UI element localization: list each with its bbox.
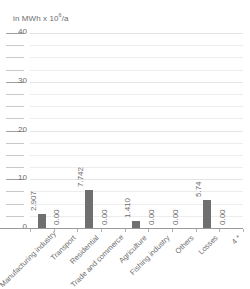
y-tick-mark bbox=[6, 216, 24, 217]
bar-value-label: 1.410 bbox=[124, 198, 132, 218]
bar-slot[interactable]: 5.74 bbox=[196, 33, 220, 228]
y-tick-label: 40 bbox=[5, 28, 27, 36]
y-tick-mark bbox=[6, 45, 24, 46]
y-tick-mark bbox=[6, 204, 24, 205]
y-axis: 010203040 bbox=[0, 33, 27, 228]
bar-slot[interactable]: 7.742 bbox=[77, 33, 101, 228]
unit-caption-suffix: /a bbox=[62, 14, 69, 23]
x-axis-ticks bbox=[30, 229, 243, 233]
bar-value-label: 0.00 bbox=[219, 209, 227, 225]
x-tick-mark bbox=[77, 229, 78, 232]
x-tick-mark bbox=[148, 229, 149, 232]
y-tick-label: 30 bbox=[5, 77, 27, 85]
bar-value-label: 5.74 bbox=[195, 181, 203, 197]
bar-chart: in MWh x 106/a 010203040 2.9070.007.7420… bbox=[0, 0, 250, 289]
y-tick-mark bbox=[6, 94, 24, 95]
y-tick-mark bbox=[6, 57, 24, 58]
y-tick-mark bbox=[6, 106, 24, 107]
bar-value-label: 2.907 bbox=[30, 191, 38, 211]
bar-slot[interactable]: 0.00 bbox=[148, 33, 172, 228]
y-tick-mark bbox=[6, 143, 24, 144]
y-tick-mark bbox=[6, 191, 24, 192]
x-tick-mark bbox=[219, 229, 220, 232]
x-tick-mark bbox=[125, 229, 126, 232]
bar-value-label: 0.00 bbox=[101, 209, 109, 225]
bar-slot[interactable]: 0.00 bbox=[219, 33, 243, 228]
x-tick-mark bbox=[30, 229, 31, 232]
bar-slot[interactable]: 2.907 bbox=[30, 33, 54, 228]
y-tick-mark bbox=[6, 70, 24, 71]
x-tick-mark bbox=[172, 229, 173, 232]
bar-slot[interactable]: 0.00 bbox=[172, 33, 196, 228]
y-tick-mark bbox=[6, 167, 24, 168]
bar[interactable] bbox=[38, 214, 46, 228]
bar[interactable] bbox=[132, 221, 140, 228]
y-tick-label: 0 bbox=[5, 223, 27, 231]
bar-slot[interactable]: 0.00 bbox=[101, 33, 125, 228]
unit-caption-text: in MWh x 10 bbox=[13, 14, 59, 23]
y-tick-label: 20 bbox=[5, 126, 27, 134]
y-tick-mark bbox=[6, 118, 24, 119]
bar[interactable] bbox=[85, 190, 93, 228]
bar[interactable] bbox=[203, 200, 211, 228]
bar-value-label: 0.00 bbox=[172, 209, 180, 225]
x-tick-mark bbox=[101, 229, 102, 232]
y-axis-unit-caption: in MWh x 106/a bbox=[13, 14, 69, 23]
bar-series: 2.9070.007.7420.001.4100.000.005.740.00 bbox=[30, 33, 243, 228]
x-tick-mark bbox=[196, 229, 197, 232]
bar-value-label: 0.00 bbox=[53, 209, 61, 225]
bar-slot[interactable]: 0.00 bbox=[54, 33, 78, 228]
y-tick-mark bbox=[6, 155, 24, 156]
bar-value-label: 0.00 bbox=[148, 209, 156, 225]
x-tick-mark bbox=[243, 229, 244, 232]
x-axis-labels: Manufacturing industryTransportResidenti… bbox=[30, 234, 243, 289]
y-tick-label: 10 bbox=[5, 174, 27, 182]
bar-slot[interactable]: 1.410 bbox=[125, 33, 149, 228]
bar-value-label: 7.742 bbox=[77, 167, 85, 187]
